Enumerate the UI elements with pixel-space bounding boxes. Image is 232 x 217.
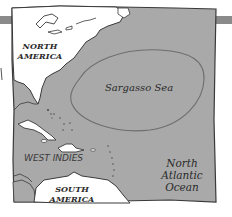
- label-america-south: AMERICA: [42, 195, 102, 203]
- label-ocean-word: Ocean: [152, 181, 212, 193]
- label-north-word: North: [152, 157, 212, 169]
- label-atlantic-word: Atlantic: [152, 169, 212, 181]
- island-puerto-rico: [91, 149, 96, 151]
- map-tab-right: [214, 16, 232, 24]
- label-south-america: SOUTH AMERICA: [42, 185, 102, 203]
- label-north: NORTH: [16, 42, 64, 50]
- island-jamaica: [41, 140, 47, 143]
- label-south: SOUTH: [42, 185, 102, 193]
- label-sargasso-sea: Sargasso Sea: [105, 83, 173, 93]
- label-north-atlantic-ocean: North Atlantic Ocean: [152, 157, 212, 193]
- label-north-america: NORTH AMERICA: [16, 42, 64, 60]
- margin-mark: [1, 68, 2, 80]
- label-america: AMERICA: [16, 52, 64, 60]
- label-west-indies: WEST INDIES: [24, 154, 83, 163]
- sargasso-sea-map: NORTH AMERICA Sargasso Sea WEST INDIES N…: [0, 0, 232, 217]
